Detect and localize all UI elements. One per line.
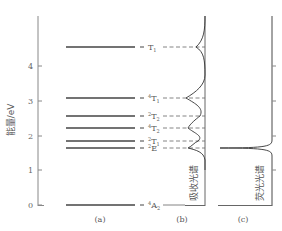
panel-label-c: (c) — [238, 215, 249, 224]
level-label: 4A2 — [148, 200, 160, 211]
y-axis-label: 能量/eV — [5, 103, 16, 137]
panel-label-b: (b) — [176, 215, 187, 224]
level-label: 4T1 — [148, 93, 160, 104]
energy-level: 2T2 — [66, 111, 205, 122]
energy-level: T1 — [66, 43, 205, 53]
level-label: T1 — [148, 43, 157, 53]
energy-level-diagram: 01234 能量/eV T14T12T24T22T12E4A2 吸收光谱 荧光光… — [0, 0, 282, 231]
level-label: 2T2 — [148, 111, 160, 122]
energy-level: 4T2 — [66, 123, 205, 134]
y-axis-tick-label: 1 — [28, 166, 33, 175]
fluorescence-spectrum — [218, 16, 276, 206]
y-axis-tick-label: 4 — [28, 62, 33, 71]
energy-level: 2T1 — [66, 136, 205, 147]
fluorescence-spectrum-label: 荧光光谱 — [254, 165, 265, 201]
energy-level: 4A2 — [66, 200, 185, 211]
y-axis: 01234 — [28, 16, 44, 210]
y-axis-tick-label: 3 — [28, 97, 33, 106]
level-label: 4T2 — [148, 123, 160, 134]
energy-levels: T14T12T24T22T12E4A2 — [66, 43, 205, 211]
level-label: 2E — [148, 143, 157, 153]
panel-label-a: (a) — [94, 215, 105, 224]
y-axis-tick-label: 2 — [28, 132, 33, 141]
energy-level: 4T1 — [66, 93, 205, 104]
absorption-spectrum-label: 吸收光谱 — [188, 165, 199, 201]
y-axis-tick-label: 0 — [28, 201, 33, 210]
energy-level: 2E — [66, 143, 205, 153]
